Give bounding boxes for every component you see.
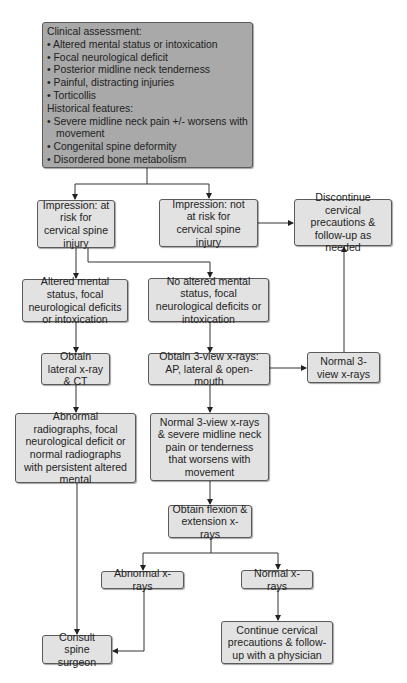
node-abnormal-xrays-label: Abnormal x-rays bbox=[105, 567, 180, 592]
clinical-item: • Painful, distracting injuries bbox=[47, 77, 248, 90]
node-not-at-risk-label: Impression: not at risk for cervical spi… bbox=[172, 198, 245, 248]
node-no-altered-label: No altered mental status, focal neurolog… bbox=[155, 275, 262, 325]
node-continue-label: Continue cervical precautions & follow-u… bbox=[225, 624, 329, 662]
node-normal-xrays: Normal x-rays bbox=[241, 570, 313, 589]
node-three-view: Obtain 3-view x-rays: AP, lateral & open… bbox=[148, 353, 270, 385]
node-no-altered: No altered mental status, focal neurolog… bbox=[148, 278, 269, 322]
node-normal-severe-label: Normal 3-view x-rays & severe midline ne… bbox=[157, 416, 262, 479]
node-altered: Altered mental status, focal neurologica… bbox=[22, 279, 128, 322]
historical-item: • Congenital spine deformity bbox=[47, 141, 248, 154]
node-consult: Consult spine surgeon bbox=[42, 635, 112, 664]
node-normal-three-view: Normal 3-view x-rays bbox=[307, 352, 380, 383]
node-discontinue-label: Discontinue cervical precautions & follo… bbox=[298, 191, 388, 254]
historical-item: • Disordered bone metabolism bbox=[47, 154, 248, 167]
node-discontinue: Discontinue cervical precautions & follo… bbox=[294, 199, 392, 246]
clinical-assessment-box: Clinical assessment: • Altered mental st… bbox=[42, 22, 253, 168]
node-normal-xrays-label: Normal x-rays bbox=[245, 567, 309, 592]
historical-item: • Severe midline neck pain +/- worsens w… bbox=[47, 116, 248, 142]
node-abnormal-xrays: Abnormal x-rays bbox=[101, 571, 184, 589]
node-abnormal-radiographs-label: Abnormal radiographs, focal neurological… bbox=[22, 410, 129, 486]
node-normal-severe: Normal 3-view x-rays & severe midline ne… bbox=[150, 413, 269, 481]
node-at-risk: Impression: at risk for cervical spine i… bbox=[37, 200, 115, 248]
clinical-item: • Altered mental status or intoxication bbox=[47, 39, 248, 52]
node-three-view-label: Obtain 3-view x-rays: AP, lateral & open… bbox=[157, 350, 261, 388]
node-at-risk-label: Impression: at risk for cervical spine i… bbox=[41, 199, 111, 249]
node-normal-three-view-label: Normal 3-view x-rays bbox=[311, 355, 376, 380]
node-consult-label: Consult spine surgeon bbox=[46, 631, 108, 669]
historical-features-header: Historical features: bbox=[47, 103, 248, 116]
node-continue: Continue cervical precautions & follow-u… bbox=[221, 621, 333, 664]
clinical-item: • Posterior midline neck tenderness bbox=[47, 64, 248, 77]
node-lateral-ct-label: Obtain lateral x-ray & CT bbox=[45, 350, 106, 388]
clinical-item: • Torticollis bbox=[47, 90, 248, 103]
clinical-item: • Focal neurological deficit bbox=[47, 52, 248, 65]
node-abnormal-radiographs: Abnormal radiographs, focal neurological… bbox=[15, 413, 136, 483]
clinical-assessment-header: Clinical assessment: bbox=[47, 26, 248, 39]
node-not-at-risk: Impression: not at risk for cervical spi… bbox=[159, 199, 258, 247]
node-flexion-extension: Obtain flexion & extension x-rays bbox=[168, 505, 252, 538]
node-flexion-extension-label: Obtain flexion & extension x-rays bbox=[172, 503, 248, 541]
node-altered-label: Altered mental status, focal neurologica… bbox=[26, 275, 124, 325]
node-lateral-ct: Obtain lateral x-ray & CT bbox=[41, 353, 110, 385]
